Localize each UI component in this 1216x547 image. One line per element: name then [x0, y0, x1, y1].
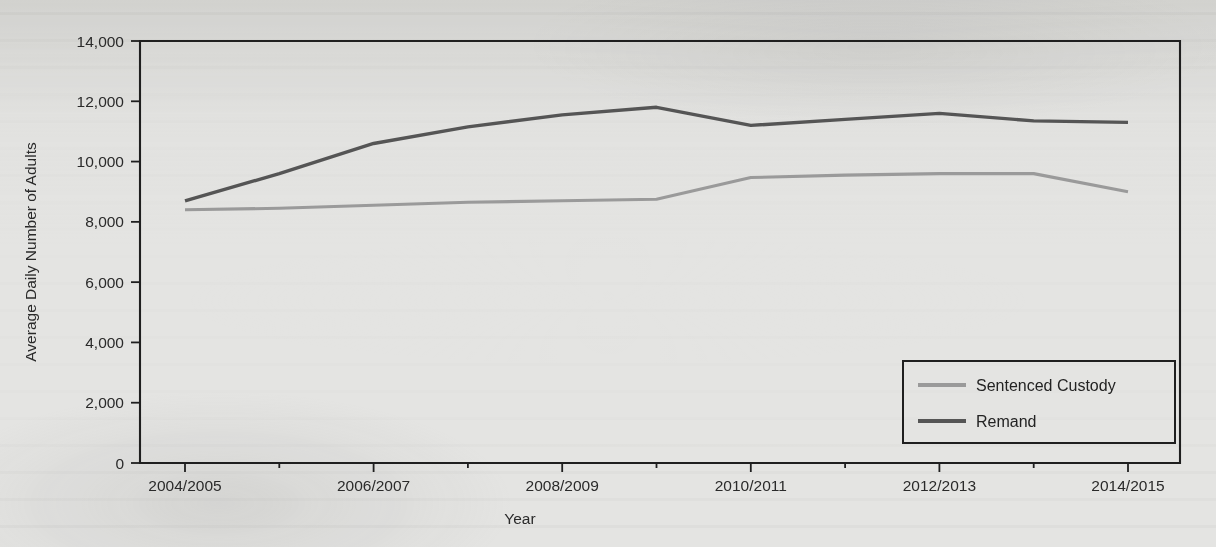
plot-frame — [140, 41, 1180, 463]
y-tick-label: 0 — [115, 455, 124, 472]
y-axis-tick-labels: 02,0004,0006,0008,00010,00012,00014,000 — [77, 33, 125, 472]
x-tick-label: 2008/2009 — [526, 477, 599, 494]
legend-box — [903, 361, 1175, 443]
y-tick-label: 6,000 — [85, 274, 124, 291]
y-axis-title: Average Daily Number of Adults — [22, 142, 39, 362]
chart-legend: Sentenced CustodyRemand — [903, 361, 1175, 443]
y-tick-label: 14,000 — [77, 33, 125, 50]
series-line-sentenced-custody — [185, 174, 1128, 210]
x-axis-tick-labels: 2004/20052006/20072008/20092010/20112012… — [148, 477, 1164, 494]
plot-border — [140, 41, 1180, 463]
series-line-remand — [185, 107, 1128, 200]
data-series-layer — [185, 107, 1128, 209]
legend-label-remand: Remand — [976, 413, 1036, 430]
y-tick-label: 8,000 — [85, 213, 124, 230]
x-tick-label: 2010/2011 — [715, 477, 787, 494]
y-axis-ticks — [131, 41, 140, 463]
x-tick-label: 2004/2005 — [148, 477, 221, 494]
x-axis-title: Year — [504, 510, 535, 527]
x-tick-label: 2014/2015 — [1091, 477, 1164, 494]
y-tick-label: 12,000 — [77, 93, 125, 110]
line-chart-figure: 02,0004,0006,0008,00010,00012,00014,000 … — [0, 0, 1216, 547]
x-tick-label: 2012/2013 — [903, 477, 976, 494]
y-tick-label: 4,000 — [85, 334, 124, 351]
chart-canvas: 02,0004,0006,0008,00010,00012,00014,000 … — [0, 0, 1216, 547]
x-axis-ticks — [185, 463, 1128, 472]
y-tick-label: 10,000 — [77, 153, 125, 170]
x-tick-label: 2006/2007 — [337, 477, 410, 494]
y-tick-label: 2,000 — [85, 394, 124, 411]
legend-entries: Sentenced CustodyRemand — [918, 377, 1116, 430]
legend-label-sentenced-custody: Sentenced Custody — [976, 377, 1116, 394]
